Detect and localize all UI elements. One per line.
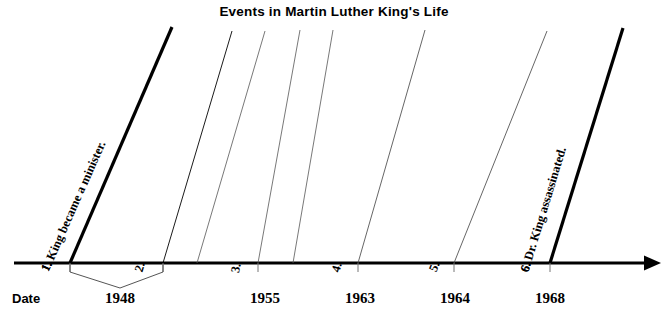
date-bracket-1948 xyxy=(70,265,163,288)
event-line-extra-a xyxy=(197,31,265,263)
timeline-diagram: Events in Martin Luther King's Life 1. 2… xyxy=(0,0,668,326)
date-label-1948: 1948 xyxy=(105,290,135,307)
event-line-1 xyxy=(70,27,172,263)
event-line-6 xyxy=(550,28,623,263)
date-label-1968: 1968 xyxy=(535,290,565,307)
date-label-1964: 1964 xyxy=(440,290,470,307)
event-line-extra-b xyxy=(293,30,333,263)
axis-arrowhead-icon xyxy=(644,256,661,271)
event-line-4 xyxy=(358,30,425,263)
event-line-2 xyxy=(163,31,232,263)
date-label-1955: 1955 xyxy=(250,290,280,307)
event-line-3 xyxy=(258,30,300,263)
date-axis-heading: Date xyxy=(12,291,40,306)
date-label-1963: 1963 xyxy=(345,290,375,307)
